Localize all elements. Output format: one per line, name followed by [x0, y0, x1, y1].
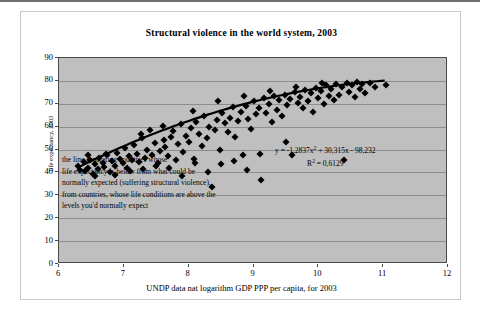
page-top-rule: [0, 0, 480, 2]
scatter-point: [336, 91, 343, 98]
explanatory-note-line: the line separating countries whose: [62, 154, 216, 166]
trendline-equation: y = -1,2837x2 + 30,315x - 98,232: [275, 142, 376, 156]
scatter-point: [263, 109, 270, 116]
scatter-point: [307, 90, 314, 97]
scatter-point: [175, 140, 182, 147]
x-axis-tick-label: 10: [305, 268, 329, 278]
scatter-point: [177, 121, 184, 128]
scatter-point: [189, 107, 196, 114]
scatter-point: [227, 114, 234, 121]
scatter-point: [231, 157, 238, 164]
scatter-point: [151, 139, 158, 146]
x-axis-tick-mark: [123, 264, 124, 267]
scatter-point: [201, 113, 208, 120]
scatter-point: [193, 119, 200, 126]
scatter-point: [310, 108, 317, 115]
y-axis-tick-label: 0: [27, 259, 53, 268]
scatter-point: [229, 104, 236, 111]
explanatory-note-line: normally expected (suffering structural …: [62, 177, 216, 189]
scatter-point: [268, 119, 275, 126]
x-axis-tick-mark: [382, 264, 383, 267]
trendline-equation-annotation: y = -1,2837x2 + 30,315x - 98,232 R2 = 0,…: [275, 142, 376, 169]
explanatory-note: the line separating countries whoselife …: [62, 154, 216, 212]
scatter-point: [278, 113, 285, 120]
trendline-r-squared: R2 = 0,6129: [275, 156, 376, 170]
scatter-point: [276, 97, 283, 104]
scatter-point: [198, 143, 205, 150]
y-axis-tick-label: 50: [27, 144, 53, 153]
scatter-point: [203, 135, 210, 142]
y-axis-tick-label: 90: [27, 53, 53, 62]
y-axis-tick-label: 10: [27, 236, 53, 245]
scatter-point: [241, 92, 248, 99]
scatter-point: [159, 122, 166, 129]
scatter-point: [256, 151, 263, 158]
x-axis-tick-mark: [58, 264, 59, 267]
scatter-point: [211, 127, 218, 134]
scatter-point: [304, 98, 311, 105]
scatter-point: [234, 117, 241, 124]
chart-title: Structural violence in the world system,…: [21, 28, 462, 38]
scatter-point: [330, 97, 337, 104]
scatter-point: [361, 90, 368, 97]
scatter-point: [245, 115, 252, 122]
scatter-point: [247, 125, 254, 132]
scatter-point: [215, 98, 222, 105]
scatter-point: [273, 106, 280, 113]
scatter-point: [293, 83, 300, 90]
y-axis-tick-label: 40: [27, 167, 53, 176]
scatter-point: [250, 98, 257, 105]
x-axis-tick-label: 12: [435, 268, 459, 278]
scatter-point: [372, 83, 379, 90]
scatter-point: [224, 129, 231, 136]
scatter-point: [221, 120, 228, 127]
scatter-point: [131, 141, 138, 148]
x-axis-tick-mark: [317, 264, 318, 267]
scatter-point: [320, 100, 327, 107]
x-axis-tick-label: 11: [370, 268, 394, 278]
explanatory-note-line: life expectancy is below from what could…: [62, 166, 216, 178]
chart-frame: Structural violence in the world system,…: [20, 11, 461, 300]
explanatory-note-line: from countries, whose life conditions ar…: [62, 189, 216, 201]
y-axis-tick-label: 20: [27, 213, 53, 222]
x-axis-tick-mark: [253, 264, 254, 267]
scatter-point: [216, 146, 223, 153]
x-axis-tick-label: 8: [176, 268, 200, 278]
scatter-point: [160, 137, 167, 144]
x-axis-tick-label: 9: [241, 268, 265, 278]
scatter-point: [383, 82, 390, 89]
y-axis-tick-label: 80: [27, 75, 53, 84]
scatter-point: [266, 100, 273, 107]
y-axis-tick-label: 60: [27, 121, 53, 130]
x-axis-tick-label: 6: [46, 268, 70, 278]
scatter-point: [219, 109, 226, 116]
scatter-point: [146, 127, 153, 134]
scatter-point: [317, 88, 324, 95]
scatter-point: [260, 95, 267, 102]
scatter-point: [240, 152, 247, 159]
scatter-point: [243, 167, 250, 174]
scatter-point: [122, 145, 129, 152]
scatter-point: [315, 95, 322, 102]
y-axis-tick-label: 70: [27, 98, 53, 107]
explanatory-note-line: levels you'd normally expect: [62, 200, 216, 212]
scatter-point: [232, 133, 239, 140]
x-axis-tick-label: 7: [111, 268, 135, 278]
scatter-point: [299, 105, 306, 112]
scatter-point: [351, 93, 358, 100]
scatter-point: [188, 124, 195, 131]
scatter-point: [242, 103, 249, 110]
y-axis-tick-label: 30: [27, 190, 53, 199]
x-axis-tick-mark: [447, 264, 448, 267]
screenshot-root: Structural violence in the world system,…: [0, 0, 480, 328]
scatter-point: [214, 116, 221, 123]
scatter-point: [195, 130, 202, 137]
scatter-point: [237, 108, 244, 115]
x-axis-title: UNDP data nat logarithm GDP PPP per capi…: [21, 283, 462, 293]
scatter-point: [258, 177, 265, 184]
x-axis-tick-mark: [188, 264, 189, 267]
scatter-point: [218, 161, 225, 168]
